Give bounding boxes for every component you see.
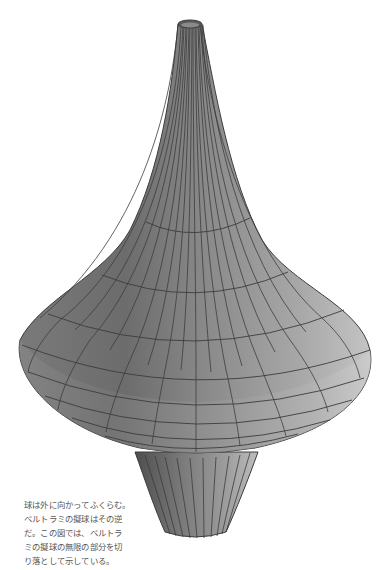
caption-line: だ。この図では、ベルトラ bbox=[24, 526, 164, 540]
top-opening bbox=[178, 20, 202, 28]
flared-body bbox=[19, 24, 371, 453]
figure-caption: 球は外に向かってふくらむ。 ベルトラミの擬球はその逆 だ。この図では、ベルトラ … bbox=[24, 498, 164, 568]
caption-line: 球は外に向かってふくらむ。 bbox=[24, 498, 164, 512]
pseudosphere-illustration bbox=[0, 0, 385, 570]
caption-line: ベルトラミの擬球はその逆 bbox=[24, 512, 164, 526]
caption-line: り落として示している。 bbox=[24, 554, 164, 568]
caption-line: ミの擬球の無限の部分を切 bbox=[24, 540, 164, 554]
